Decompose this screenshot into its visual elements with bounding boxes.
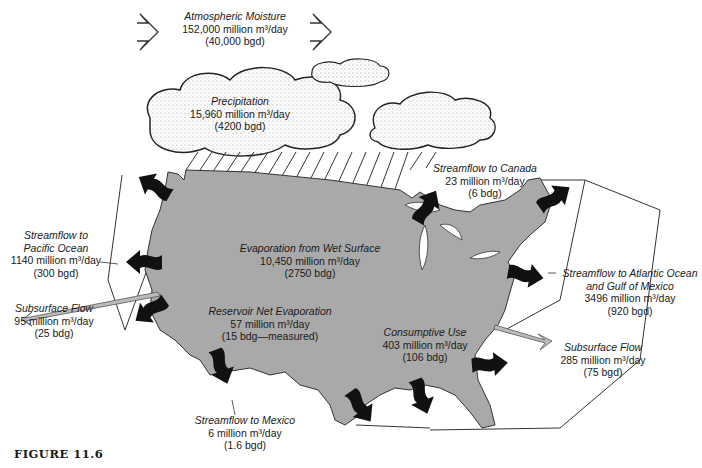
label-alt-value: (40,000 bgd) xyxy=(150,35,320,48)
consumptive-use-label: Consumptive Use 403 million m³/day (106 … xyxy=(370,326,480,364)
figure-caption: FIGURE 11.6 xyxy=(14,447,103,461)
label-alt-value: (4200 bgd) xyxy=(170,120,310,133)
label-title: Pacific Ocean xyxy=(0,242,112,255)
cloud-icon xyxy=(312,59,389,87)
label-title: Streamflow to Canada xyxy=(420,162,550,175)
label-alt-value: (75 bgd) xyxy=(553,366,653,379)
label-value: 10,450 million m³/day xyxy=(220,255,400,268)
label-value: 3496 million m³/day xyxy=(555,292,702,305)
label-value: 23 million m³/day xyxy=(420,175,550,188)
streamflow-atlantic-label: Streamflow to Atlantic Ocean and Gulf of… xyxy=(555,267,702,317)
label-value: 1140 million m³/day xyxy=(0,254,112,267)
label-title: Precipitation xyxy=(170,95,310,108)
streamflow-mexico-label: Streamflow to Mexico 6 million m³/day (1… xyxy=(190,414,300,452)
label-alt-value: (15 bdg—measured) xyxy=(195,330,345,343)
streamflow-canada-label: Streamflow to Canada 23 million m³/day (… xyxy=(420,162,550,200)
label-title: and Gulf of Mexico xyxy=(555,280,702,293)
label-value: 403 million m³/day xyxy=(370,339,480,352)
label-value: 95 million m³/day xyxy=(8,315,100,328)
label-alt-value: (300 bgd) xyxy=(0,267,112,280)
label-alt-value: (920 bgd) xyxy=(555,305,702,318)
label-title: Streamflow to xyxy=(0,229,112,242)
precipitation-label: Precipitation 15,960 million m³/day (420… xyxy=(170,95,310,133)
label-alt-value: (2750 bdg) xyxy=(220,267,400,280)
label-title: Streamflow to Atlantic Ocean xyxy=(555,267,702,280)
subsurface-flow-east-label: Subsurface Flow 285 million m³/day (75 b… xyxy=(553,341,653,379)
label-value: 57 million m³/day xyxy=(195,318,345,331)
evaporation-wet-surface-label: Evaporation from Wet Surface 10,450 mill… xyxy=(220,242,400,280)
label-title: Reservoir Net Evaporation xyxy=(195,305,345,318)
label-value: 6 million m³/day xyxy=(190,427,300,440)
streamflow-pacific-label: Streamflow to Pacific Ocean 1140 million… xyxy=(0,229,112,279)
label-title: Evaporation from Wet Surface xyxy=(220,242,400,255)
us-map-icon xyxy=(145,170,552,428)
label-alt-value: (106 bdg) xyxy=(370,351,480,364)
cloud-icon xyxy=(370,92,495,149)
label-title: Streamflow to Mexico xyxy=(190,414,300,427)
label-title: Consumptive Use xyxy=(370,326,480,339)
label-alt-value: (6 bdg) xyxy=(420,187,550,200)
atmospheric-moisture-label: Atmospheric Moisture 152,000 million m³/… xyxy=(150,10,320,48)
label-value: 15,960 million m³/day xyxy=(170,108,310,121)
subsurface-arrow-icon xyxy=(494,325,552,350)
label-alt-value: (25 bdg) xyxy=(8,327,100,340)
label-title: Subsurface Flow xyxy=(8,302,100,315)
subsurface-flow-west-label: Subsurface Flow 95 million m³/day (25 bd… xyxy=(8,302,100,340)
label-value: 152,000 million m³/day xyxy=(150,23,320,36)
label-title: Atmospheric Moisture xyxy=(150,10,320,23)
label-value: 285 million m³/day xyxy=(553,354,653,367)
label-alt-value: (1.6 bgd) xyxy=(190,439,300,452)
label-title: Subsurface Flow xyxy=(553,341,653,354)
reservoir-net-evaporation-label: Reservoir Net Evaporation 57 million m³/… xyxy=(195,305,345,343)
